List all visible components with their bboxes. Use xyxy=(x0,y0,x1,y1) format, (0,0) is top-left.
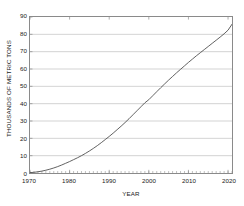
x-axis-title: YEAR xyxy=(29,190,233,197)
x-axis-tick-label: 2020 xyxy=(222,177,236,184)
y-axis-tick-label: 50 xyxy=(14,83,27,89)
y-axis-tick-label: 30 xyxy=(14,118,27,124)
x-axis-tick-label: 1990 xyxy=(102,177,116,184)
x-axis-tick-labels: 197019801990200020102020 xyxy=(29,177,233,187)
y-axis-tick-label: 90 xyxy=(14,13,27,19)
line-chart-figure: THOUSANDS OF METRIC TONS 010203040506070… xyxy=(0,0,244,206)
x-axis-tick-label: 1980 xyxy=(62,177,76,184)
plot-area xyxy=(29,16,233,174)
y-axis-tick-label: 60 xyxy=(14,66,27,72)
y-axis-tick-label: 10 xyxy=(14,153,27,159)
y-axis-tick-label: 80 xyxy=(14,30,27,36)
x-axis-tick-label: 1970 xyxy=(22,177,36,184)
plot-canvas xyxy=(30,17,232,173)
y-axis-tick-label: 40 xyxy=(14,101,27,107)
y-axis-title-label: THOUSANDS OF METRIC TONS xyxy=(5,40,12,137)
y-axis-ticks xyxy=(30,17,32,173)
x-axis-major-ticks xyxy=(30,17,228,173)
x-axis-tick-label: 2010 xyxy=(182,177,196,184)
x-axis-minor-ticks xyxy=(30,171,232,173)
data-series-lines xyxy=(30,24,232,172)
y-axis-tick-label: 70 xyxy=(14,48,27,54)
horizontal-gridlines xyxy=(30,34,232,155)
y-axis-tick-label: 20 xyxy=(14,136,27,142)
y-axis-tick-labels: 0102030405060708090 xyxy=(14,16,27,174)
x-axis-tick-label: 2000 xyxy=(142,177,156,184)
